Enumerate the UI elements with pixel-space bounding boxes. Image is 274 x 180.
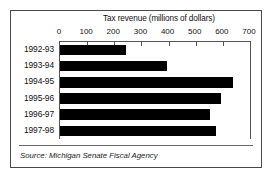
bar-row [60,42,250,58]
y-axis-category-labels: 1992-931993-941994-951995-961996-971997-… [11,41,59,138]
source-note: Source: Michigan Senate Fiscal Agency [20,151,158,160]
source-divider [19,145,253,146]
bar [60,61,167,72]
bar-row [60,107,250,123]
bar [60,45,126,56]
x-axis-tick-labels: 0100200300400500600700 [11,27,263,39]
y-category-label: 1997-98 [24,125,54,135]
y-category-label: 1992-93 [24,44,54,54]
y-category-label: 1996-97 [24,109,54,119]
chart-title: Tax revenue (millions of dollars) [61,14,257,23]
bar-row [60,123,250,139]
bar-row [60,58,250,74]
chart-figure: Tax revenue (millions of dollars) 010020… [10,10,262,168]
bar [60,126,216,137]
bar-row [60,74,250,90]
bar [60,109,210,120]
x-tick-label: 500 [183,27,207,36]
x-tick-label: 400 [156,27,180,36]
plot-area [59,41,251,139]
y-category-label: 1993-94 [24,60,54,70]
bar-series [60,42,250,139]
y-category-label: 1995-96 [24,93,54,103]
x-tick-label: 0 [47,27,71,36]
y-category-label: 1994-95 [24,76,54,86]
x-tick-label: 200 [101,27,125,36]
bar-row [60,91,250,107]
x-tick-label: 100 [74,27,98,36]
x-tick-label: 600 [210,27,234,36]
bar [60,93,221,104]
x-tick-label: 700 [237,27,261,36]
bar [60,77,233,88]
x-tick-label: 300 [128,27,152,36]
